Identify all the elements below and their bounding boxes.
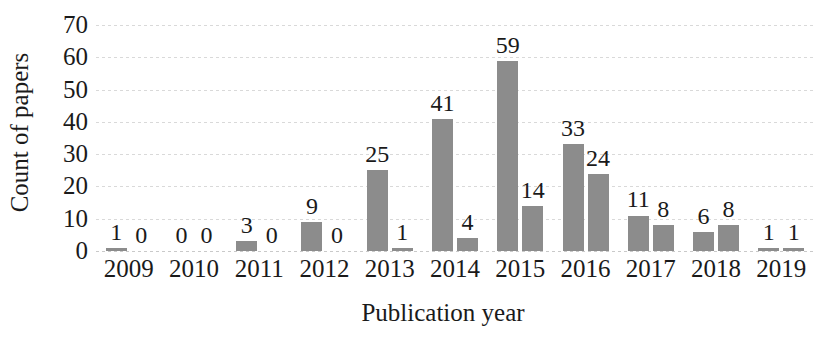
bar-slot-2012-series-1: 9 [301,25,322,251]
bar-2011-series-1[interactable] [236,241,257,251]
y-axis-tick-labels: 010203040506070 [36,25,88,251]
bar-value-label-2015-series-1: 59 [496,33,520,57]
bar-value-label-2012-series-2: 0 [331,223,343,247]
bar-2017-series-2[interactable] [653,225,674,251]
bar-slot-2019-series-2: 1 [783,25,804,251]
y-tick-label-70: 70 [44,12,88,37]
bar-value-label-2015-series-2: 14 [521,178,545,202]
bar-group-2015: 5914 [488,25,553,251]
bar-slot-2011-series-2: 0 [261,25,282,251]
x-tick-label-2017: 2017 [618,256,683,281]
bar-value-label-2019-series-2: 1 [788,220,800,244]
bar-value-label-2014-series-1: 41 [430,91,454,115]
x-tick-label-2014: 2014 [422,256,487,281]
bar-value-label-2019-series-1: 1 [763,220,775,244]
bar-chart: Count of papers 010203040506070 10003090… [0,0,826,347]
bar-slot-2013-series-2: 1 [392,25,413,251]
y-tick-label-50: 50 [44,77,88,102]
bar-group-2013: 251 [357,25,422,251]
bar-group-2012: 90 [292,25,357,251]
bar-slot-2014-series-2: 4 [457,25,478,251]
bar-slot-2015-series-1: 59 [497,25,518,251]
bar-group-2011: 30 [227,25,292,251]
bar-slot-2013-series-1: 25 [367,25,388,251]
bar-slot-2009-series-2: 0 [131,25,152,251]
x-tick-label-2009: 2009 [96,256,161,281]
bar-slot-2019-series-1: 1 [758,25,779,251]
bar-value-label-2018-series-2: 8 [723,197,735,221]
bar-slot-2014-series-1: 41 [432,25,453,251]
bar-group-2009: 10 [96,25,161,251]
bar-2018-series-1[interactable] [693,232,714,251]
bar-slot-2011-series-1: 3 [236,25,257,251]
bar-value-label-2010-series-2: 0 [200,223,212,247]
bar-group-2019: 11 [749,25,814,251]
bar-value-label-2018-series-1: 6 [698,204,710,228]
bar-2014-series-2[interactable] [457,238,478,251]
bar-group-2017: 118 [618,25,683,251]
bar-2013-series-2[interactable] [392,248,413,251]
bar-value-label-2010-series-1: 0 [175,223,187,247]
x-tick-label-2019: 2019 [749,256,814,281]
bar-value-label-2016-series-2: 24 [586,146,610,170]
bar-slot-2018-series-1: 6 [693,25,714,251]
bar-value-label-2011-series-1: 3 [241,213,253,237]
bar-value-label-2017-series-1: 11 [627,187,650,211]
bar-value-label-2013-series-2: 1 [396,220,408,244]
bar-value-label-2017-series-2: 8 [657,197,669,221]
bar-value-label-2012-series-1: 9 [306,194,318,218]
x-axis-tick-labels: 2009201020112012201320142015201620172018… [96,256,814,292]
x-axis-title: Publication year [60,300,826,325]
bar-group-2016: 3324 [553,25,618,251]
bar-group-2010: 00 [161,25,226,251]
bar-value-label-2009-series-2: 0 [135,223,147,247]
bar-slot-2009-series-1: 1 [106,25,127,251]
y-tick-label-30: 30 [44,141,88,166]
bar-2016-series-1[interactable] [563,144,584,251]
bar-2012-series-1[interactable] [301,222,322,251]
x-tick-label-2016: 2016 [553,256,618,281]
y-tick-label-20: 20 [44,173,88,198]
bar-value-label-2009-series-1: 1 [110,220,122,244]
bar-value-label-2013-series-1: 25 [365,142,389,166]
bar-slot-2010-series-2: 0 [196,25,217,251]
bar-value-label-2011-series-2: 0 [266,223,278,247]
bar-2019-series-1[interactable] [758,248,779,251]
bar-group-2018: 68 [683,25,748,251]
bar-slot-2017-series-1: 11 [628,25,649,251]
gridline-0 [96,251,814,252]
bar-slot-2018-series-2: 8 [718,25,739,251]
y-tick-label-60: 60 [44,44,88,69]
bar-slot-2012-series-2: 0 [326,25,347,251]
x-tick-label-2013: 2013 [357,256,422,281]
bar-value-label-2016-series-1: 33 [561,116,585,140]
bar-slot-2016-series-1: 33 [563,25,584,251]
x-tick-label-2012: 2012 [292,256,357,281]
x-tick-label-2011: 2011 [227,256,292,281]
x-tick-label-2018: 2018 [683,256,748,281]
bar-slot-2010-series-1: 0 [171,25,192,251]
bar-slot-2015-series-2: 14 [522,25,543,251]
y-axis-title: Count of papers [7,13,32,253]
bar-2018-series-2[interactable] [718,225,739,251]
x-tick-label-2010: 2010 [161,256,226,281]
y-tick-label-40: 40 [44,109,88,134]
bar-group-2014: 414 [422,25,487,251]
y-tick-label-10: 10 [44,206,88,231]
bar-2009-series-1[interactable] [106,248,127,251]
bar-2017-series-1[interactable] [628,216,649,252]
bar-2014-series-1[interactable] [432,119,453,251]
x-tick-label-2015: 2015 [488,256,553,281]
plot-area: 10003090251414591433241186811 [96,25,814,251]
bar-2015-series-1[interactable] [497,61,518,251]
bar-2019-series-2[interactable] [783,248,804,251]
bar-2016-series-2[interactable] [588,174,609,251]
bar-2013-series-1[interactable] [367,170,388,251]
y-tick-label-0: 0 [44,238,88,263]
bar-slot-2016-series-2: 24 [588,25,609,251]
bar-slot-2017-series-2: 8 [653,25,674,251]
bar-value-label-2014-series-2: 4 [461,210,473,234]
bar-2015-series-2[interactable] [522,206,543,251]
